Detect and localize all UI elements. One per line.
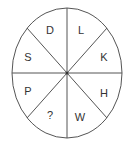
sector-label-top-left: D bbox=[46, 24, 54, 36]
sector-label-left-lower: P bbox=[24, 85, 31, 97]
sector-label-right-upper: K bbox=[100, 51, 108, 63]
sector-label-top-right: L bbox=[78, 24, 84, 36]
letter-wheel-diagram: D L K H W ? P S bbox=[0, 0, 128, 143]
sector-label-bottom-left: ? bbox=[47, 109, 53, 121]
sector-label-left-upper: S bbox=[24, 51, 31, 63]
sector-label-bottom-right: W bbox=[75, 111, 86, 123]
center-dot bbox=[66, 72, 69, 75]
sector-label-right-lower: H bbox=[100, 87, 108, 99]
